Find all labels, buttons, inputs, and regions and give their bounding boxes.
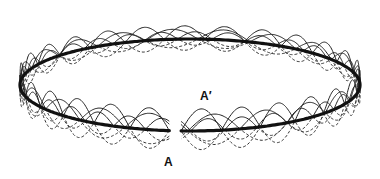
dashed-wave-curve — [20, 39, 360, 149]
dashed-wave-curve — [20, 39, 360, 141]
label-a: A — [164, 155, 173, 169]
solid-wave-curve — [20, 32, 360, 131]
solid-wave-curve — [20, 26, 360, 131]
diagram-canvas — [0, 0, 380, 179]
orbit-wave-diagram: A′ A — [0, 0, 380, 179]
label-a-prime: A′ — [200, 89, 212, 103]
